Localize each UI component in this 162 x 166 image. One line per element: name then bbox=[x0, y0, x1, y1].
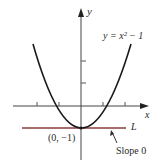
y-axis-arrow-icon bbox=[78, 8, 84, 17]
parabola-diagram bbox=[0, 0, 162, 166]
slope-label: Slope 0 bbox=[116, 146, 146, 156]
x-axis-label: x bbox=[145, 110, 149, 120]
parabola-curve bbox=[33, 44, 131, 128]
y-axis-label: y bbox=[87, 6, 92, 17]
tangent-point bbox=[79, 126, 82, 129]
point-label: (0, −1) bbox=[48, 133, 75, 143]
line-label: L bbox=[131, 122, 137, 132]
equation-label: y = x² − 1 bbox=[103, 31, 143, 41]
y-ticks bbox=[81, 61, 86, 83]
